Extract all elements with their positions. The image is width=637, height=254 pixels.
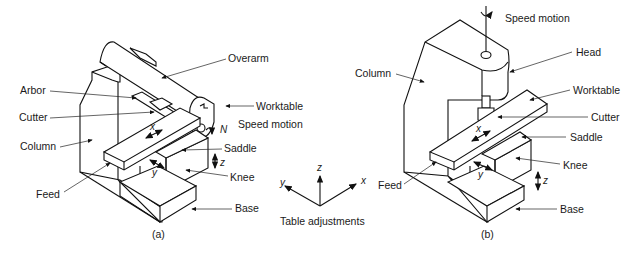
label-head: Head [576,46,601,58]
label-column-a: Column [20,140,56,152]
label-overarm: Overarm [228,52,269,64]
label-x-a: x [149,121,156,132]
axes-caption: Table adjustments [280,215,365,227]
label-y-a: y [151,167,158,178]
label-feed-b: Feed [378,179,402,191]
caption-b: (b) [481,228,494,240]
label-x-b: x [475,123,482,134]
label-knee-b: Knee [563,159,588,171]
label-knee-a: Knee [230,171,255,183]
label-speed-motion-a: Speed motion [238,118,303,130]
label-worktable-a: Worktable [256,100,303,112]
label-saddle-b: Saddle [570,131,603,143]
caption-a: (a) [152,228,165,240]
label-cutter-b: Cutter [591,111,620,123]
milling-machines-diagram: Overarm Arbor Cutter Column Feed Worktab… [0,0,637,254]
label-saddle-a: Saddle [224,142,257,154]
label-base-b: Base [560,203,584,215]
label-y-b: y [477,169,484,180]
label-n: N [220,124,228,135]
panel-a-horizontal-mill: Overarm Arbor Cutter Column Feed Worktab… [19,42,303,240]
label-base-a: Base [235,202,259,214]
axis-z-label: z [316,162,322,173]
label-z-a: z [219,157,225,168]
label-worktable-b: Worktable [573,84,620,96]
label-speed-motion-b: Speed motion [505,12,570,24]
label-cutter-a: Cutter [19,111,48,123]
label-z-b: z [542,175,548,186]
axis-y-label: y [279,177,286,188]
table-adjustments-axes: z y x Table adjustments [279,162,367,227]
axis-x-label: x [360,175,367,186]
label-column-b: Column [355,67,391,79]
label-arbor: Arbor [20,84,46,96]
label-feed-a: Feed [36,188,60,200]
panel-b-vertical-mill: Speed motion Head Column Worktable Cutte… [355,6,620,240]
